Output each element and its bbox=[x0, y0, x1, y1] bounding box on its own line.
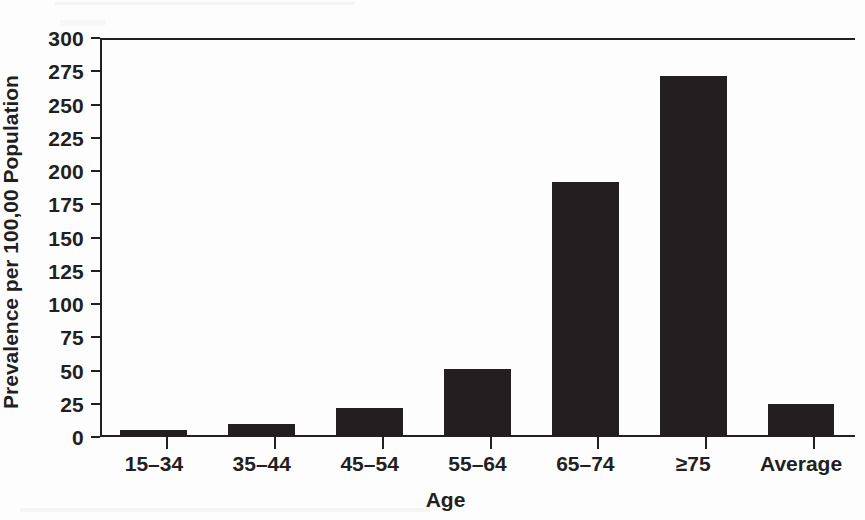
y-tick-label: 0 bbox=[72, 426, 84, 450]
y-tick-label: 50 bbox=[60, 360, 84, 384]
bar bbox=[120, 430, 187, 435]
y-tick-mark bbox=[91, 70, 100, 72]
x-tick-mark bbox=[166, 437, 168, 449]
bar bbox=[228, 424, 295, 435]
x-category-label: 35–44 bbox=[208, 452, 316, 476]
y-tick-label: 25 bbox=[60, 393, 84, 417]
x-axis-title: Age bbox=[0, 488, 865, 512]
y-tick-mark bbox=[91, 137, 100, 139]
y-tick-label: 75 bbox=[60, 326, 84, 350]
plot-area: 0255075100125150175200225250275300 bbox=[100, 38, 855, 437]
y-tick-mark bbox=[91, 104, 100, 106]
x-category-label: 65–74 bbox=[531, 452, 639, 476]
y-tick-label: 100 bbox=[48, 293, 84, 317]
y-tick-label: 200 bbox=[48, 160, 84, 184]
x-category-label: 15–34 bbox=[100, 452, 208, 476]
x-axis-title-label: Age bbox=[426, 488, 466, 511]
bar bbox=[768, 404, 835, 435]
y-tick-mark bbox=[91, 37, 100, 39]
x-tick-mark bbox=[705, 437, 707, 449]
y-tick-mark bbox=[91, 336, 100, 338]
bar-series bbox=[100, 38, 855, 435]
x-axis-line bbox=[100, 435, 855, 437]
y-tick-label: 275 bbox=[48, 60, 84, 84]
bar bbox=[444, 369, 511, 436]
x-tick-mark bbox=[597, 437, 599, 449]
x-category-label: 55–64 bbox=[424, 452, 532, 476]
bar bbox=[336, 408, 403, 435]
x-category-label: ≥75 bbox=[639, 452, 747, 476]
y-tick-mark bbox=[91, 370, 100, 372]
y-tick-mark bbox=[91, 436, 100, 438]
chart-figure: Prevalence per 100,00 Population 0255075… bbox=[0, 0, 865, 520]
y-axis-title-label: Prevalence per 100,00 Population bbox=[0, 75, 23, 409]
y-tick-label: 250 bbox=[48, 94, 84, 118]
x-tick-mark bbox=[813, 437, 815, 449]
y-tick-mark bbox=[91, 203, 100, 205]
y-tick-label: 225 bbox=[48, 127, 84, 151]
y-tick-mark bbox=[91, 403, 100, 405]
y-tick-label: 150 bbox=[48, 227, 84, 251]
y-tick-mark bbox=[91, 270, 100, 272]
bar bbox=[552, 182, 619, 435]
y-tick-label: 125 bbox=[48, 260, 84, 284]
x-category-label: 45–54 bbox=[316, 452, 424, 476]
y-tick-mark bbox=[91, 237, 100, 239]
scan-artifact-top bbox=[55, 2, 355, 5]
y-tick-label: 175 bbox=[48, 193, 84, 217]
x-tick-mark bbox=[490, 437, 492, 449]
y-tick-mark bbox=[91, 170, 100, 172]
x-tick-mark bbox=[274, 437, 276, 449]
bar bbox=[660, 76, 727, 435]
y-axis-title: Prevalence per 100,00 Population bbox=[0, 0, 26, 520]
scan-artifact-top-secondary bbox=[60, 20, 105, 26]
y-tick-label: 300 bbox=[48, 27, 84, 51]
x-category-label: Average bbox=[747, 452, 855, 476]
y-tick-mark bbox=[91, 303, 100, 305]
x-tick-mark bbox=[382, 437, 384, 449]
